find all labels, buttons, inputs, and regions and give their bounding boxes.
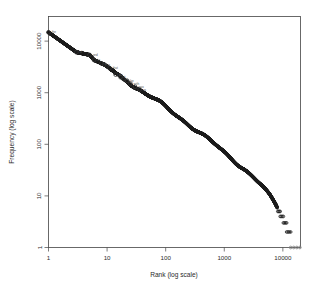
data-point-label: to [97, 58, 100, 62]
x-axis-title: Rank (log scale) [150, 271, 198, 279]
data-point-label: that [113, 66, 118, 70]
x-tick-label: 100 [161, 254, 172, 261]
data-point-label: in [108, 63, 111, 67]
data-point-label: a [105, 62, 107, 66]
data-point-label: as [143, 88, 147, 92]
y-tick-label: 1000 [36, 85, 43, 99]
data-point-label: his [119, 73, 123, 77]
x-tick-label: 10 [104, 254, 111, 261]
zipf-chart-figure: theofandtoainthathisitihewithwasas 11010… [0, 0, 315, 293]
y-tick-label: 100 [36, 139, 43, 150]
data-point-label: of [80, 50, 83, 54]
y-tick-label: 10 [36, 192, 43, 199]
x-tick-label: 10000 [274, 254, 292, 261]
x-tick-label: 1 [47, 254, 51, 261]
y-tick-label: 10000 [36, 32, 43, 50]
figure-background [0, 0, 315, 293]
data-point-label: and [93, 53, 98, 57]
y-tick-label: 1 [36, 245, 43, 249]
chart-canvas: theofandtoainthathisitihewithwasas 11010… [0, 0, 315, 293]
x-tick-label: 1000 [217, 254, 231, 261]
data-point-label: the [52, 30, 57, 34]
y-axis-title: Frequency (log scale) [8, 100, 16, 163]
data-point-label: it [124, 75, 126, 79]
